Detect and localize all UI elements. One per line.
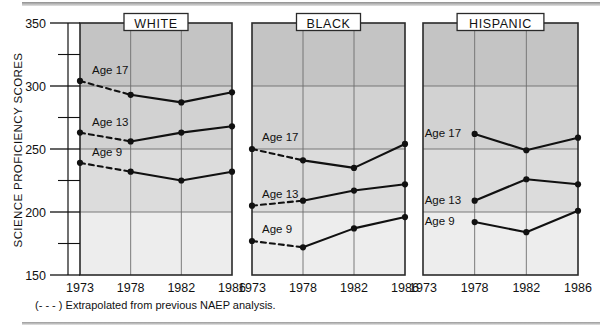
series-label: Age 9 bbox=[92, 146, 122, 158]
data-point bbox=[77, 130, 83, 136]
data-point bbox=[249, 146, 255, 152]
x-tick-label: 1978 bbox=[289, 281, 317, 295]
plot-band bbox=[423, 86, 578, 149]
plot-band bbox=[423, 23, 578, 86]
series-label: Age 9 bbox=[262, 223, 292, 235]
x-tick-label: 1978 bbox=[117, 281, 145, 295]
data-point bbox=[523, 229, 529, 235]
data-point bbox=[128, 92, 134, 98]
data-point bbox=[351, 187, 357, 193]
series-label: Age 17 bbox=[425, 127, 461, 139]
data-point bbox=[178, 99, 184, 105]
data-point bbox=[178, 130, 184, 136]
plot-band bbox=[80, 149, 232, 212]
data-point bbox=[472, 219, 478, 225]
data-point bbox=[575, 135, 581, 141]
data-point bbox=[402, 141, 408, 147]
series-label: Age 13 bbox=[92, 116, 128, 128]
data-point bbox=[472, 198, 478, 204]
y-tick-label: 200 bbox=[25, 206, 46, 220]
plot-band bbox=[252, 23, 405, 86]
plot-band bbox=[80, 23, 232, 86]
data-point bbox=[300, 198, 306, 204]
x-tick-label: 1982 bbox=[340, 281, 368, 295]
data-point bbox=[300, 244, 306, 250]
series-label: Age 13 bbox=[262, 188, 298, 200]
x-tick-label: 1982 bbox=[167, 281, 195, 295]
x-tick-label: 1973 bbox=[66, 281, 94, 295]
data-point bbox=[229, 89, 235, 95]
x-axis: 1973197819821986197319781982198619731978… bbox=[66, 281, 592, 295]
x-tick-label: 1973 bbox=[409, 281, 437, 295]
data-point bbox=[402, 181, 408, 187]
data-point bbox=[351, 225, 357, 231]
data-point bbox=[351, 165, 357, 171]
data-point bbox=[128, 169, 134, 175]
data-point bbox=[249, 203, 255, 209]
data-point bbox=[575, 208, 581, 214]
data-point bbox=[402, 214, 408, 220]
x-tick-label: 1986 bbox=[564, 281, 592, 295]
data-point bbox=[575, 181, 581, 187]
x-tick-label: 1973 bbox=[238, 281, 266, 295]
y-tick-label: 250 bbox=[25, 143, 46, 157]
y-tick-label: 300 bbox=[25, 80, 46, 94]
panel-title-label: BLACK bbox=[307, 17, 351, 31]
panel-title-label: WHITE bbox=[134, 17, 177, 31]
data-point bbox=[300, 157, 306, 163]
x-tick-label: 1982 bbox=[512, 281, 540, 295]
plot-band bbox=[80, 212, 232, 275]
data-point bbox=[523, 147, 529, 153]
data-point bbox=[77, 78, 83, 84]
footnote-text: (- - - ) Extrapolated from previous NAEP… bbox=[35, 299, 276, 311]
series-label: Age 13 bbox=[425, 194, 461, 206]
footnote-area: (- - - ) Extrapolated from previous NAEP… bbox=[35, 299, 276, 311]
chart-canvas: 350300250200150SCIENCE PROFICIENCY SCORE… bbox=[0, 0, 603, 333]
science-proficiency-figure: 350300250200150SCIENCE PROFICIENCY SCORE… bbox=[0, 0, 603, 333]
data-point bbox=[229, 123, 235, 129]
data-point bbox=[77, 160, 83, 166]
y-axis-title: SCIENCE PROFICIENCY SCORES bbox=[12, 53, 24, 248]
data-point bbox=[472, 131, 478, 137]
y-axis: 350300250200150SCIENCE PROFICIENCY SCORE… bbox=[12, 17, 80, 283]
series-label: Age 17 bbox=[92, 64, 128, 76]
data-point bbox=[523, 176, 529, 182]
data-point bbox=[178, 177, 184, 183]
x-tick-label: 1978 bbox=[461, 281, 489, 295]
series-label: Age 17 bbox=[262, 131, 298, 143]
y-tick-label: 350 bbox=[25, 17, 46, 31]
series-label: Age 9 bbox=[425, 215, 455, 227]
panel-title-label: HISPANIC bbox=[469, 17, 532, 31]
y-tick-label: 150 bbox=[25, 269, 46, 283]
data-point bbox=[249, 238, 255, 244]
panel-titles: WHITEBLACKHISPANIC bbox=[124, 14, 544, 31]
data-point bbox=[229, 169, 235, 175]
data-point bbox=[128, 138, 134, 144]
